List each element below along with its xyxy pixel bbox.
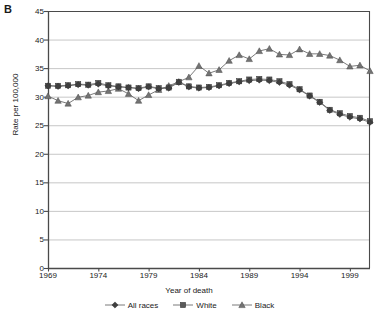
chart-legend: All racesWhiteBlack: [0, 300, 378, 310]
gridlines: [48, 12, 370, 269]
series-all-races: [45, 77, 373, 125]
marker-triangle: [296, 46, 302, 52]
legend-key-square-icon: [172, 300, 194, 310]
marker-triangle: [266, 45, 272, 51]
legend-label: White: [196, 301, 216, 310]
marker-triangle: [206, 70, 212, 76]
marker-triangle: [357, 62, 363, 68]
legend-item-black[interactable]: Black: [231, 300, 275, 310]
marker-triangle: [125, 91, 131, 97]
marker-triangle: [55, 97, 61, 103]
marker-triangle: [85, 92, 91, 98]
legend-label: All races: [128, 301, 159, 310]
marker-triangle: [135, 97, 141, 103]
legend-key-diamond-icon: [104, 300, 126, 310]
y-tick-marks: [44, 12, 48, 269]
figure-panel-b: B Rate per 100,000 Year of death 0510152…: [0, 0, 378, 318]
marker-diamond: [112, 302, 118, 308]
legend-label: Black: [255, 301, 275, 310]
plot-area: [0, 0, 378, 318]
legend-item-all-races[interactable]: All races: [104, 300, 159, 310]
marker-triangle: [45, 93, 51, 99]
marker-triangle: [337, 57, 343, 63]
series-white: [45, 76, 372, 123]
marker-triangle: [226, 57, 232, 63]
axis-frame: [48, 11, 370, 269]
marker-triangle: [145, 92, 151, 98]
legend-key-triangle-icon: [231, 300, 253, 310]
marker-triangle: [236, 52, 242, 58]
legend-item-white[interactable]: White: [172, 300, 216, 310]
marker-triangle: [196, 63, 202, 69]
marker-square: [181, 302, 186, 307]
